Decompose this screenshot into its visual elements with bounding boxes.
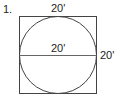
problem-number: 1. bbox=[3, 4, 12, 15]
side-dimension-label: 20' bbox=[100, 50, 114, 61]
diameter-label: 20' bbox=[51, 43, 65, 54]
top-dimension-label: 20' bbox=[51, 3, 65, 14]
